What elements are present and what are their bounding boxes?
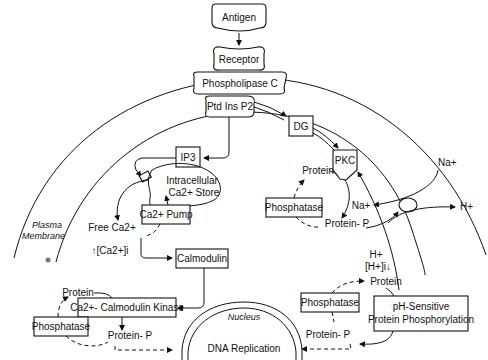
- pkc-node: PKC: [333, 150, 357, 180]
- calmodulin-node: Calmodulin: [176, 249, 228, 268]
- dg-node: DG: [289, 116, 313, 136]
- protein-right-label: Protein: [370, 276, 402, 287]
- protein-p-left-label: Protein- P: [108, 330, 153, 341]
- intracellular-store-label-2: Ca2+ Store: [169, 187, 220, 198]
- ca-pump-label: Ca2+ Pump: [139, 209, 193, 220]
- phosphatase-right-node: Phosphatase: [301, 293, 360, 312]
- phospholipase-c-label: Phospholipase C: [202, 78, 278, 89]
- ca-calmodulin-kinase-node: Ca2+- Calmodulin Kinase: [70, 298, 184, 317]
- antigen-node: Antigen: [212, 4, 266, 31]
- ph-sensitive-label-1: pH-Sensitive: [393, 301, 450, 312]
- protein-left-label: Protein: [62, 287, 94, 298]
- membrane-dot: [46, 258, 51, 263]
- na-out-label: Na+: [438, 157, 457, 168]
- nucleus-label: Nucleus: [228, 312, 261, 322]
- h-decrease-label: [H+]i↓: [365, 261, 391, 272]
- dg-label: DG: [294, 121, 309, 132]
- phosphatase-left-label: Phosphatase: [32, 321, 91, 332]
- dna-replication-label: DNA Replication: [208, 343, 281, 354]
- ip3-label: IP3: [180, 152, 195, 163]
- ph-sensitive-label-2: Protein Phosphorylation: [368, 314, 474, 325]
- h-in-label: H+: [369, 249, 382, 260]
- receptor-node: Receptor: [214, 47, 265, 70]
- pkc-label: PKC: [335, 155, 356, 166]
- protein-p-pkc-label: Protein- P: [325, 218, 370, 229]
- intracellular-ca-store: Intracellular Ca2+ Store: [148, 163, 220, 211]
- intracellular-store-label-1: Intracellular: [166, 175, 218, 186]
- phosphatase-pkc-node: Phosphatase: [265, 198, 324, 217]
- protein-pkc-label: Protein: [302, 165, 334, 176]
- ph-sensitive-node: pH-Sensitive Protein Phosphorylation: [368, 296, 474, 331]
- phospholipase-c-node: Phospholipase C: [194, 72, 287, 94]
- free-ca-label: Free Ca2+: [88, 222, 136, 233]
- plasma-membrane-label-1: Plasma: [32, 220, 62, 230]
- nucleus: Nucleus DNA Replication: [182, 302, 302, 360]
- plasma-membrane-label-2: Membrane: [22, 231, 65, 241]
- ca-pump-node: Ca2+ Pump: [139, 205, 193, 224]
- ca-calmodulin-kinase-label: Ca2+- Calmodulin Kinase: [70, 302, 184, 313]
- phosphatase-right-label: Phosphatase: [301, 297, 360, 308]
- signaling-pathway-diagram: Plasma Membrane Antigen Receptor Phospho…: [0, 0, 488, 360]
- receptor-label: Receptor: [219, 54, 260, 65]
- antigen-label: Antigen: [222, 12, 256, 23]
- h-out-label: H+: [460, 201, 473, 212]
- ptd-ins-p2-node: Ptd Ins P2: [206, 96, 255, 117]
- ca-increase-label: ↑[Ca2+]i: [92, 245, 129, 256]
- calmodulin-label: Calmodulin: [177, 253, 227, 264]
- phosphatase-left-node: Phosphatase: [32, 317, 91, 336]
- phosphatase-pkc-label: Phosphatase: [265, 202, 324, 213]
- ptd-ins-p2-label: Ptd Ins P2: [207, 101, 254, 112]
- protein-p-right-label: Protein- P: [306, 329, 351, 340]
- na-in-label: Na+: [352, 200, 371, 211]
